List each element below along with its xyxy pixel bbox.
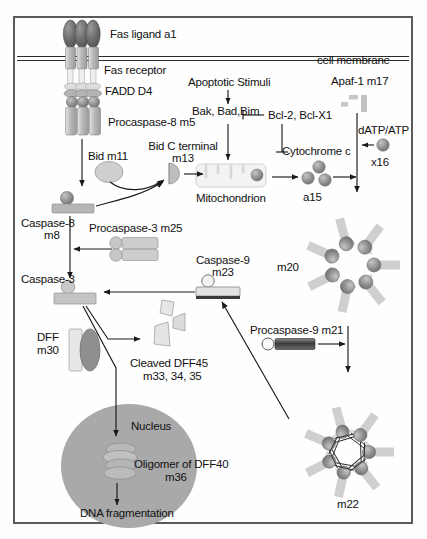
label-oligomer-1: Oligomer of DFF40 (134, 458, 228, 470)
bid-glyph (95, 162, 123, 183)
label-caspase8-1: Caspase-8 (21, 217, 75, 229)
label-caspase9-2: m23 (212, 266, 234, 278)
apaf1-glyph (341, 95, 367, 112)
caspase9-glyph (196, 275, 240, 299)
procaspase8-glyph (66, 96, 101, 135)
label-a15: a15 (303, 191, 322, 203)
label-dff-1: DFF (37, 331, 59, 343)
label-bcl2: Bcl-2, Bcl-X1 (268, 109, 332, 121)
label-oligomer-2: m36 (165, 471, 187, 483)
arrow-m22-to-m23 (222, 302, 289, 419)
mitochondrion-glyph (196, 164, 266, 187)
label-cytochrome-c: Cytochrome c (282, 145, 351, 157)
label-mitochondrion: Mitochondrion (196, 192, 266, 204)
label-dff-2: m30 (37, 344, 59, 356)
datp-atp-glyph (377, 139, 389, 151)
label-datp-atp: dATP/ATP (358, 124, 409, 136)
label-cleaved-dff45-2: m33, 34, 35 (143, 370, 202, 382)
label-procaspase3: Procaspase-3 m25 (89, 222, 182, 234)
label-m20: m20 (277, 261, 299, 273)
label-fas-receptor: Fas receptor (104, 64, 166, 76)
label-caspase3: Caspase-3 (21, 273, 75, 285)
dff40-oligomer-glyph (103, 443, 137, 479)
dff-glyph (69, 329, 100, 371)
fas-receptor-glyph (66, 47, 99, 84)
label-bak-bad-bim: Bak, Bad,Bim (192, 105, 259, 117)
procaspase3-glyph (110, 237, 158, 261)
label-procaspase9: Procaspase-9 m21 (250, 324, 343, 336)
arrow-m11-to-m13 (110, 180, 164, 190)
label-apoptotic-stimuli: Apoptotic Stimuli (188, 76, 270, 88)
label-caspase9-1: Caspase-9 (196, 254, 250, 266)
label-cleaved-dff45-1: Cleaved DFF45 (130, 357, 208, 369)
bid-c-terminal-glyph (169, 163, 180, 184)
label-fas-ligand: Fas ligand a1 (110, 28, 176, 40)
fadd-glyph (64, 83, 102, 97)
label-apaf1: Apaf-1 m17 (331, 75, 388, 87)
fas-ligand-glyph (63, 20, 100, 48)
apoptosome-m22-glyph (298, 404, 394, 501)
caspase8-glyph (52, 191, 94, 213)
apoptosis-pathway-figure: Fas ligand a1 Fas receptor FADD D4 Proca… (0, 0, 427, 539)
label-bid-c-terminal-2: m13 (140, 152, 226, 165)
apoptosome-m20-glyph (305, 217, 400, 314)
label-fadd: FADD D4 (105, 85, 152, 97)
label-cell-membrane: cell membrane (317, 54, 390, 66)
label-x16: x16 (371, 156, 389, 168)
cleaved-dff45-glyph (154, 300, 185, 346)
label-procaspase8: Procaspase-8 m5 (108, 116, 195, 128)
label-caspase8-2: m8 (44, 229, 60, 241)
label-m22: m22 (337, 498, 359, 510)
label-bid: Bid m11 (88, 150, 128, 162)
cytochrome-c-glyph (302, 161, 331, 186)
procaspase9-glyph (262, 338, 315, 350)
label-nucleus: Nucleus (131, 420, 171, 432)
label-dna-fragmentation: DNA fragmentation (80, 507, 174, 519)
